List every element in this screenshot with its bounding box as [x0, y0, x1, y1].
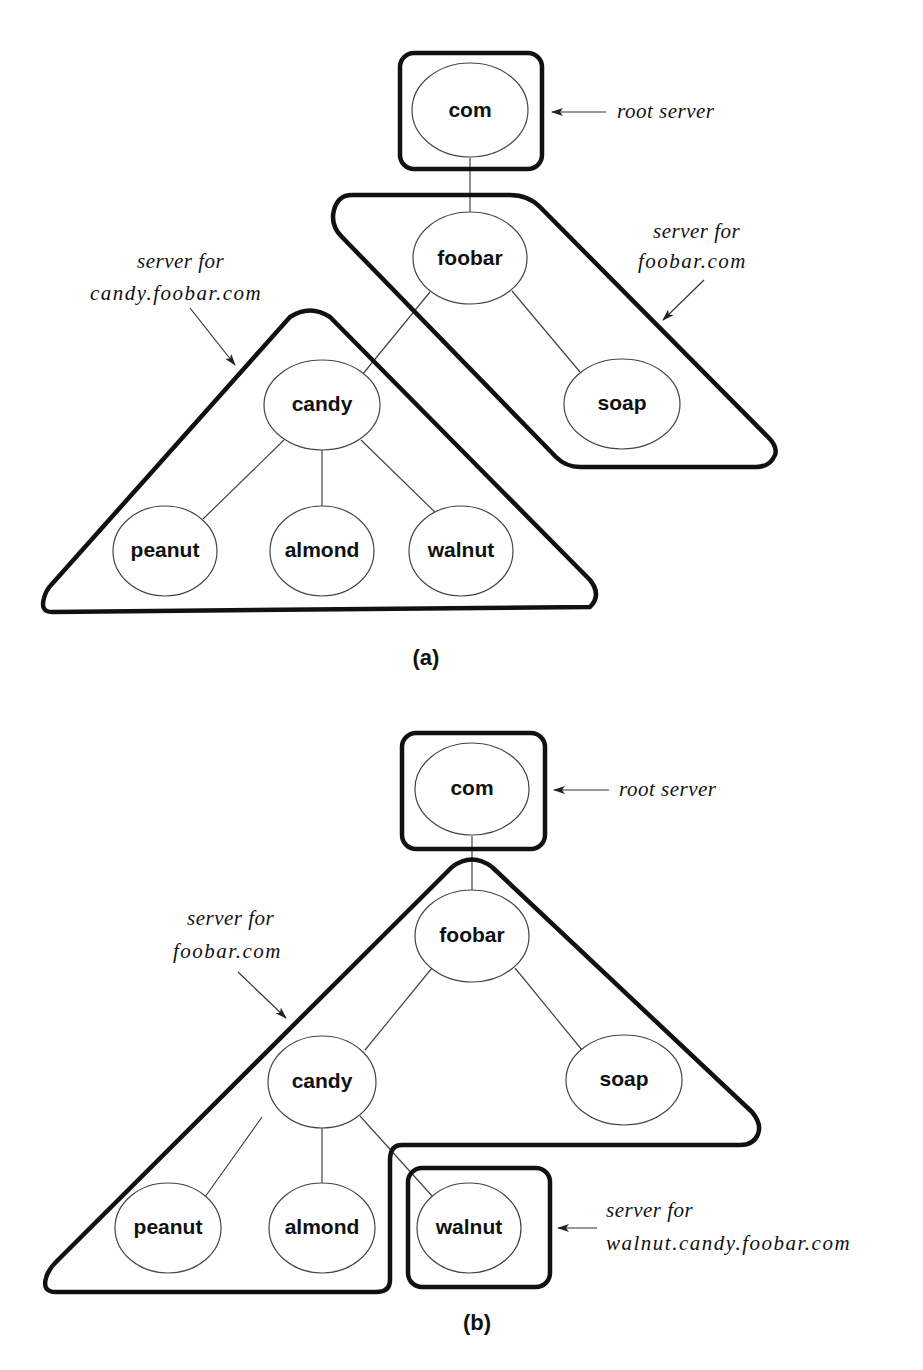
svg-text:almond: almond [285, 538, 360, 561]
svg-text:server for: server for [137, 249, 225, 273]
svg-text:server for: server for [187, 906, 275, 930]
svg-text:peanut: peanut [131, 538, 200, 561]
node-soap[interactable]: soap [566, 1035, 682, 1125]
figure-b: com foobar soap candy peanut almond waln… [45, 733, 851, 1335]
node-almond[interactable]: almond [270, 506, 374, 596]
svg-text:candy: candy [292, 392, 353, 415]
caption-b: (b) [463, 1310, 491, 1335]
node-peanut[interactable]: peanut [115, 1183, 221, 1273]
svg-text:foobar.com: foobar.com [173, 939, 282, 963]
edge-foobar-soap [512, 291, 580, 372]
node-com[interactable]: com [412, 63, 528, 157]
svg-text:root server: root server [617, 99, 715, 123]
svg-text:almond: almond [285, 1215, 360, 1238]
node-peanut[interactable]: peanut [113, 506, 217, 596]
svg-text:walnut.candy.foobar.com: walnut.candy.foobar.com [606, 1231, 851, 1255]
annotation-walnut-server: server for walnut.candy.foobar.com [558, 1198, 851, 1255]
node-almond[interactable]: almond [269, 1183, 375, 1273]
edge-candy-peanut [203, 440, 284, 519]
svg-text:foobar.com: foobar.com [638, 249, 747, 273]
svg-text:candy: candy [292, 1069, 353, 1092]
svg-text:com: com [450, 776, 493, 799]
svg-text:peanut: peanut [134, 1215, 203, 1238]
node-candy[interactable]: candy [268, 1036, 376, 1128]
svg-text:walnut: walnut [435, 1215, 503, 1238]
node-foobar[interactable]: foobar [413, 212, 527, 304]
svg-text:soap: soap [597, 391, 646, 414]
node-soap[interactable]: soap [564, 359, 680, 449]
edge-candy-peanut [205, 1117, 262, 1197]
svg-text:candy.foobar.com: candy.foobar.com [90, 281, 262, 305]
svg-text:foobar: foobar [439, 923, 504, 946]
svg-text:root server: root server [619, 777, 717, 801]
caption-a: (a) [413, 645, 440, 670]
svg-text:server for: server for [606, 1198, 694, 1222]
arrow-icon [190, 308, 235, 365]
edge-candy-walnut [361, 440, 441, 518]
arrow-icon [663, 280, 704, 320]
annotation-root-server: root server [554, 777, 717, 801]
edge-foobar-candy [365, 968, 432, 1050]
svg-text:foobar: foobar [437, 246, 502, 269]
figure-a: com foobar soap candy peanut almond waln… [43, 53, 776, 670]
annotation-candy-server: server for candy.foobar.com [90, 249, 262, 365]
node-foobar[interactable]: foobar [415, 890, 529, 982]
node-com[interactable]: com [415, 743, 529, 835]
svg-text:com: com [448, 98, 491, 121]
dns-zones-diagram: com foobar soap candy peanut almond waln… [0, 0, 923, 1370]
annotation-foobar-server: server for foobar.com [173, 906, 286, 1018]
svg-text:soap: soap [599, 1067, 648, 1090]
arrow-icon [238, 972, 286, 1018]
node-candy[interactable]: candy [264, 360, 380, 450]
edge-candy-walnut [360, 1116, 433, 1197]
annotation-root-server: root server [552, 99, 715, 123]
node-walnut[interactable]: walnut [417, 1183, 521, 1273]
svg-text:walnut: walnut [427, 538, 495, 561]
node-walnut[interactable]: walnut [409, 506, 513, 596]
annotation-foobar-server: server for foobar.com [638, 219, 747, 320]
edge-foobar-soap [515, 968, 582, 1050]
svg-text:server for: server for [653, 219, 741, 243]
